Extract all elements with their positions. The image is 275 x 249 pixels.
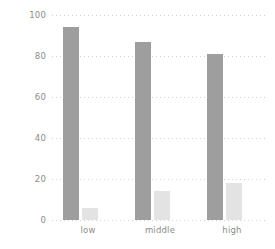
y-axis: 020406080100 [0,15,46,220]
gridline [52,15,268,16]
x-tick-label: middle [124,226,196,235]
bar-low-series-2 [82,208,98,220]
gridline [52,97,268,98]
y-tick-label: 100 [6,11,46,20]
x-tick-label: low [52,226,124,235]
y-tick-label: 60 [6,93,46,102]
gridline [52,56,268,57]
gridline [52,179,268,180]
y-tick-label: 80 [6,52,46,61]
plot-area [52,15,268,220]
bar-chart: 020406080100 lowmiddlehigh [0,0,275,249]
y-tick-label: 0 [6,216,46,225]
bar-middle-series-1 [135,42,151,220]
bar-high-series-1 [207,54,223,220]
gridline [52,220,268,221]
x-tick-label: high [196,226,268,235]
x-axis: lowmiddlehigh [52,226,268,242]
y-tick-label: 20 [6,175,46,184]
bar-high-series-2 [226,183,242,220]
bar-middle-series-2 [154,191,170,220]
gridline [52,138,268,139]
bar-low-series-1 [63,27,79,220]
y-tick-label: 40 [6,134,46,143]
